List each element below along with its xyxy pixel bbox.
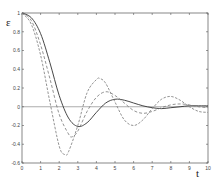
- x-tick-label: 9: [188, 165, 191, 171]
- line-chart: 10.80.60.40.20-0.2-0.4-0.6 012345678910 …: [0, 0, 220, 180]
- plot-frame: [22, 13, 208, 163]
- y-tick-label: 0.4: [13, 66, 20, 72]
- data-series: [22, 13, 208, 155]
- x-tick-label: 3: [76, 165, 79, 171]
- y-tick-label: 0.2: [13, 85, 20, 91]
- x-axis-label: t: [196, 167, 199, 179]
- x-tick-label: 6: [132, 165, 135, 171]
- series-dash-dot: [22, 13, 208, 155]
- y-tick-label: -0.6: [11, 160, 20, 166]
- y-axis-label: ε: [6, 16, 11, 28]
- y-tick-label: -0.4: [11, 141, 20, 147]
- series-dashed: [22, 13, 208, 137]
- x-tick-label: 0: [21, 165, 24, 171]
- x-tick-label: 1: [39, 165, 42, 171]
- x-tick-label: 10: [205, 165, 211, 171]
- x-tick-label: 2: [58, 165, 61, 171]
- y-tick-label: 0.8: [13, 29, 20, 35]
- y-tick-label: 0.6: [13, 47, 20, 53]
- x-tick-label: 5: [114, 165, 117, 171]
- y-tick-label: 0: [17, 104, 20, 110]
- y-tick-label: -0.2: [11, 122, 20, 128]
- y-tick-label: 1: [17, 10, 20, 16]
- series-solid: [22, 13, 208, 127]
- x-tick-label: 4: [95, 165, 98, 171]
- x-tick-label: 8: [169, 165, 172, 171]
- x-tick-label: 7: [151, 165, 154, 171]
- x-axis-ticks: 012345678910: [21, 13, 211, 171]
